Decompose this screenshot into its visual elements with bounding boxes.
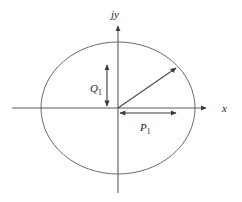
y-axis-label: jy (109, 8, 119, 20)
phasor-circle-diagram: x jy Q1 P1 (0, 0, 242, 202)
q1-label-base: Q (90, 82, 98, 94)
q1-label-subscript: 1 (98, 88, 102, 97)
x-axis-label: x (221, 102, 227, 114)
canvas-background (0, 0, 242, 202)
p1-label-subscript: 1 (147, 127, 151, 136)
